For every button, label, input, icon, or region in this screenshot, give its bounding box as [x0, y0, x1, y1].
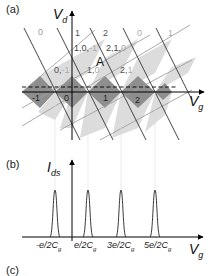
panel-c-label: (c) — [6, 264, 19, 276]
diamond-label-2: 2 — [135, 95, 140, 105]
state-label-1-0-m1: 1,0,-1 — [74, 43, 97, 53]
vg-axis-title: Vg — [189, 93, 203, 112]
state-label-2-1: 2,1 — [120, 65, 133, 75]
tick-label-m-e-2cg: -e/2Cg — [36, 240, 61, 252]
state-label-1-0: 1,0 — [87, 65, 100, 75]
state-label-0-m1: 0,-1 — [54, 65, 70, 75]
diamond-label-1: 1 — [103, 93, 108, 103]
top-label-0: 0 — [38, 27, 43, 37]
state-label-2-1-0: 2,1,0 — [106, 43, 126, 53]
tick-label-e-2cg: e/2Cg — [74, 240, 96, 252]
top-label-4: 1 — [168, 28, 173, 38]
vd-axis-title: Vd — [53, 6, 67, 25]
ids-axis-title: Ids — [47, 159, 60, 178]
panel-a-label: (a) — [6, 3, 19, 15]
panel-b-label: (b) — [6, 158, 19, 170]
vg-axis-title-b: Vg — [189, 241, 203, 260]
diamond-label-0: 0 — [64, 93, 69, 103]
top-label-3: 0 — [137, 28, 142, 38]
tick-label-5e-2cg: 5e/2Cg — [144, 240, 171, 252]
diamond-label-m1: -1 — [32, 93, 40, 103]
top-label-1: 1 — [75, 28, 80, 38]
top-label-2: 2 — [103, 28, 108, 38]
current-peaks — [50, 190, 160, 237]
tick-label-3e-2cg: 3e/2Cg — [107, 240, 134, 252]
